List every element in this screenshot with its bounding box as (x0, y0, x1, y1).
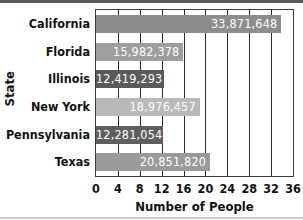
category-label: Illinois (0, 70, 90, 88)
x-tick-label: 4 (106, 181, 130, 196)
bar-california: 33,871,648 (96, 15, 281, 33)
gridline (140, 10, 141, 176)
category-label: California (0, 15, 90, 33)
bar-pennsylvania: 12,281,054 (96, 126, 163, 144)
gridline (227, 10, 228, 176)
x-tick-label: 16 (172, 181, 196, 196)
gridline (118, 10, 119, 176)
x-tick-label: 32 (259, 181, 283, 196)
bar-new-york: 18,976,457 (96, 98, 200, 116)
category-label: Florida (0, 43, 90, 61)
category-label: Pennsylvania (0, 126, 90, 144)
x-tick-label: 28 (237, 181, 261, 196)
gridline (205, 10, 206, 176)
category-label: Texas (0, 153, 90, 171)
gridline (249, 10, 250, 176)
category-label: New York (0, 98, 90, 116)
x-axis-title: Number of People (95, 199, 294, 214)
x-tick-label: 20 (193, 181, 217, 196)
x-tick-label: 24 (215, 181, 239, 196)
x-tick-label: 12 (150, 181, 174, 196)
gridline (271, 10, 272, 176)
gridline (162, 10, 163, 176)
x-tick-label: 8 (128, 181, 152, 196)
bottom-border (0, 217, 303, 219)
x-tick-label: 36 (281, 181, 303, 196)
top-border (0, 0, 303, 3)
plot-area: 33,871,64815,982,37812,419,29318,976,457… (95, 9, 294, 177)
bar-texas: 20,851,820 (96, 153, 210, 171)
bar-florida: 15,982,378 (96, 43, 183, 61)
x-tick-label: 0 (84, 181, 108, 196)
bar-illinois: 12,419,293 (96, 70, 164, 88)
gridline (184, 10, 185, 176)
